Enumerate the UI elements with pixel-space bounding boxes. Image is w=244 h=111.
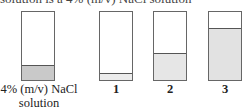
solution-fill	[154, 53, 186, 80]
solution-fill	[100, 73, 132, 80]
beaker-3	[208, 11, 242, 81]
beaker-3-label: 3	[208, 82, 242, 96]
beaker-1-label: 1	[99, 82, 133, 96]
beaker-2-label: 2	[153, 82, 187, 96]
clipped-caption: solution is a 4% (m/v) NaCl solution	[0, 0, 244, 5]
solution-fill	[209, 28, 241, 80]
solution-fill	[22, 65, 54, 80]
label-line-1: 4% (m/v) NaCl	[0, 82, 78, 96]
beaker-reference-label: 4% (m/v) NaCl solution	[0, 82, 78, 110]
beaker-2	[153, 11, 187, 81]
beaker-1	[99, 11, 133, 81]
label-line-2: solution	[0, 96, 78, 110]
beaker-reference	[21, 11, 55, 81]
